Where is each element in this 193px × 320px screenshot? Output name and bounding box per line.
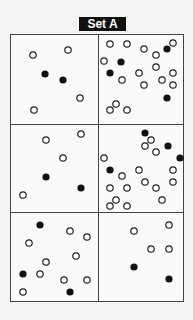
open-circle [65, 47, 71, 53]
open-circle [166, 246, 172, 252]
open-circle [101, 58, 107, 64]
open-circle [136, 167, 142, 173]
open-circle [148, 137, 154, 143]
open-circle [107, 107, 113, 113]
open-circle [119, 77, 125, 83]
open-circle [170, 82, 176, 88]
open-circle [73, 253, 79, 259]
open-circle [159, 77, 165, 83]
open-circle [20, 192, 26, 198]
filled-circle [77, 184, 84, 191]
open-circle [119, 173, 125, 179]
filled-circle [163, 94, 170, 101]
open-circle [107, 203, 113, 209]
open-circle [43, 259, 49, 265]
open-circle [153, 149, 159, 155]
open-circle [166, 222, 172, 228]
open-circle [113, 101, 119, 107]
filled-circle [36, 221, 43, 228]
open-circle [124, 107, 130, 113]
dot-layer [0, 0, 193, 320]
open-circle [107, 185, 113, 191]
open-circle [67, 228, 73, 234]
open-circle [124, 185, 130, 191]
open-circle [159, 197, 165, 203]
open-circle [101, 155, 107, 161]
open-circle [107, 41, 113, 47]
filled-circle [117, 58, 124, 65]
open-circle [124, 41, 130, 47]
filled-circle [130, 263, 137, 270]
open-circle [30, 52, 36, 58]
filled-circle [19, 270, 26, 277]
open-circle [170, 70, 176, 76]
open-circle [131, 228, 137, 234]
open-circle [148, 246, 154, 252]
open-circle [20, 289, 26, 295]
open-circle [153, 185, 159, 191]
open-circle [26, 240, 32, 246]
open-circle [170, 179, 176, 185]
open-circle [78, 131, 84, 137]
open-circle [153, 52, 159, 58]
open-circle [60, 155, 66, 161]
open-circle [153, 64, 159, 70]
open-circle [136, 70, 142, 76]
open-circle [61, 277, 67, 283]
filled-circle [165, 275, 172, 282]
open-circle [31, 107, 37, 113]
filled-circle [176, 154, 183, 161]
filled-circle [59, 76, 66, 83]
filled-circle [164, 142, 171, 149]
open-circle [43, 137, 49, 143]
open-circle [84, 277, 90, 283]
open-circle [142, 179, 148, 185]
open-circle [84, 234, 90, 240]
open-circle [170, 40, 176, 46]
open-circle [170, 167, 176, 173]
open-circle [77, 95, 83, 101]
open-circle [37, 271, 43, 277]
filled-circle [163, 45, 170, 52]
filled-circle [141, 129, 148, 136]
filled-circle [66, 288, 73, 295]
filled-circle [106, 69, 113, 76]
open-circle [124, 203, 130, 209]
open-circle [141, 82, 147, 88]
open-circle [113, 197, 119, 203]
open-circle [141, 46, 147, 52]
open-circle [142, 143, 148, 149]
filled-circle [106, 166, 113, 173]
filled-circle [42, 173, 49, 180]
filled-circle [41, 70, 48, 77]
